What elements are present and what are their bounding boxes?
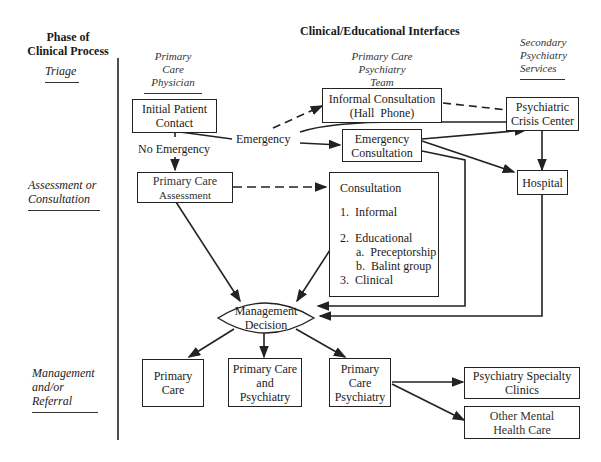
node-primary-care-and-psychiatry: Primary Care and Psychiatry [228, 358, 302, 407]
phase-assessment: Assessment or Consultation [28, 178, 100, 211]
underline [32, 412, 98, 413]
main-title: Clinical/Educational Interfaces [300, 24, 480, 38]
column-header-physician: Primary Care Physician [144, 50, 202, 99]
col-label: Secondary [520, 36, 565, 49]
phase-triage: Triage [45, 64, 79, 83]
phase-label: and/or [32, 380, 98, 394]
phase-management: Management and/or Referral [32, 366, 98, 413]
col-label: Psychiatry Team [346, 63, 418, 89]
node-text: Primary [341, 362, 380, 376]
phase-header: Phase of Clinical Process [18, 30, 118, 58]
phase-label: Referral [32, 394, 98, 408]
node-text: Care [349, 376, 372, 390]
edge-label-emergency: Emergency [236, 132, 290, 146]
node-text: Contact [156, 116, 193, 130]
node-text: Initial Patient [142, 102, 207, 116]
node-text: Crisis Center [511, 114, 574, 128]
node-primary-care-assessment: Primary Care Assessment [137, 172, 233, 203]
node-text: Psychiatry [335, 390, 386, 404]
consultation-item: 1. Informal [340, 205, 438, 219]
underline [144, 93, 202, 94]
phase-label: Assessment or [28, 178, 100, 192]
underline [520, 79, 565, 80]
node-text: Consultation [351, 146, 412, 160]
node-text: Primary [154, 369, 193, 383]
col-label: Psychiatry [520, 49, 565, 62]
phase-header-line1: Phase of [18, 30, 118, 44]
node-text: Primary Care [153, 174, 217, 188]
consultation-item: 3. Clinical [340, 273, 438, 287]
node-text: Informal Consultation [329, 92, 435, 106]
node-text: Care [162, 383, 185, 397]
node-psychiatry-specialty-clinics: Psychiatry Specialty Clinics [464, 367, 580, 399]
node-text: Psychiatry [240, 390, 291, 404]
consultation-item: 2. Educational [340, 231, 438, 245]
node-emergency-consultation: Emergency Consultation [342, 129, 422, 162]
node-text: Management [218, 304, 314, 318]
node-text: Psychiatry Specialty [473, 369, 571, 383]
phase-label: Management [32, 366, 98, 380]
node-text: Emergency [355, 132, 409, 146]
col-label: Primary Care [346, 50, 418, 63]
phase-label: Consultation [28, 192, 100, 206]
column-header-secondary: Secondary Psychiatry Services [520, 36, 565, 80]
node-primary-care-psychiatry: Primary Care Psychiatry [329, 358, 391, 407]
node-text: (Hall Phone) [350, 106, 415, 120]
node-consultation: Consultation 1. Informal 2. Educational … [329, 172, 439, 297]
node-text: Clinics [505, 383, 539, 397]
col-label: Services [520, 62, 565, 75]
col-label: Primary Care [144, 50, 202, 76]
node-text: Hospital [522, 176, 563, 190]
node-text: Other Mental [490, 409, 554, 423]
col-label: Physician [144, 76, 202, 89]
node-hospital: Hospital [517, 170, 568, 195]
phase-header-line2: Clinical Process [18, 44, 118, 58]
node-text: Psychiatric [516, 100, 569, 114]
node-initial-patient-contact: Initial Patient Contact [132, 99, 217, 133]
consultation-subitem: a. Preceptorship [340, 245, 438, 259]
underline [28, 210, 100, 211]
consultation-title: Consultation [340, 181, 438, 195]
phase-label: Triage [45, 64, 79, 78]
node-text: and [256, 376, 273, 390]
node-text: Decision [218, 318, 314, 332]
node-informal-consultation: Informal Consultation (Hall Phone) [322, 88, 442, 123]
node-text: Assessment [159, 188, 211, 202]
node-primary-care: Primary Care [142, 359, 204, 407]
consultation-subitem: b. Balint group [340, 259, 438, 273]
node-psychiatric-crisis-center: Psychiatric Crisis Center [506, 97, 579, 131]
node-other-mental-health-care: Other Mental Health Care [464, 406, 580, 439]
node-text: Primary Care [233, 362, 297, 376]
underline [45, 82, 79, 83]
edge-label-no-emergency: No Emergency [138, 142, 210, 156]
node-text: Health Care [493, 423, 551, 437]
node-management-decision: Management Decision [218, 304, 314, 332]
